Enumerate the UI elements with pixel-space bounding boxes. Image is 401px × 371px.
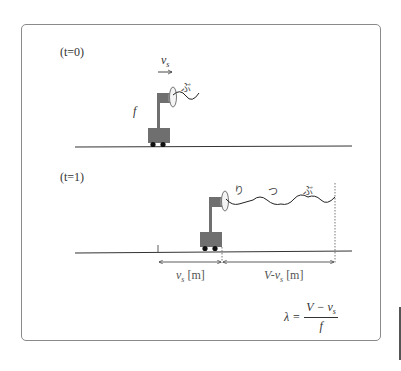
sound-source-cart-t0 bbox=[148, 87, 177, 147]
wheel-icon bbox=[212, 246, 217, 251]
velocity-label: vs bbox=[161, 53, 169, 69]
ground-line-t0 bbox=[75, 146, 352, 147]
wheel-icon bbox=[150, 142, 155, 147]
formula-numerator: V − vs bbox=[304, 300, 338, 318]
dim-vs-unit: [m] bbox=[187, 268, 204, 282]
sound-source-cart-t1 bbox=[200, 191, 229, 251]
dim-v-minus-vs-var: V-v bbox=[264, 268, 280, 282]
formula-denominator: f bbox=[319, 318, 322, 334]
numerator-main: V − v bbox=[306, 300, 333, 314]
ground-line-t1 bbox=[75, 251, 352, 253]
wheel-icon bbox=[160, 142, 165, 147]
label-t0-text: (t=0) bbox=[60, 45, 84, 59]
formula-fraction: V − vs f bbox=[304, 300, 338, 334]
wavelength-formula: λ = V − vs f bbox=[284, 300, 338, 334]
frequency-label: f bbox=[133, 104, 136, 119]
panel-t0 bbox=[75, 72, 352, 147]
label-t0: (t=0) bbox=[60, 45, 84, 60]
sound-text-ri: り bbox=[234, 182, 244, 197]
dim-v-minus-vs-unit: [m] bbox=[286, 268, 303, 282]
cart-body bbox=[148, 128, 170, 143]
label-t1: (t=1) bbox=[60, 170, 84, 185]
wheel-icon bbox=[202, 246, 207, 251]
sound-text-t0: ぶ bbox=[181, 79, 191, 94]
sound-text-tsu: つ bbox=[268, 183, 278, 198]
dim-label-vs: vs [m] bbox=[176, 268, 205, 284]
cart-body bbox=[200, 232, 222, 247]
numerator-sub: s bbox=[333, 307, 336, 316]
dim-v-minus-vs-sub: s bbox=[280, 275, 283, 284]
velocity-sub: s bbox=[166, 60, 169, 69]
dim-vs-sub: s bbox=[181, 275, 184, 284]
formula-lhs: λ = bbox=[284, 310, 300, 325]
dim-label-v-minus-vs: V-vs [m] bbox=[264, 268, 303, 284]
speaker-cone bbox=[170, 87, 177, 107]
label-t1-text: (t=1) bbox=[60, 170, 84, 184]
sound-text-bu: ぶ bbox=[303, 182, 313, 197]
